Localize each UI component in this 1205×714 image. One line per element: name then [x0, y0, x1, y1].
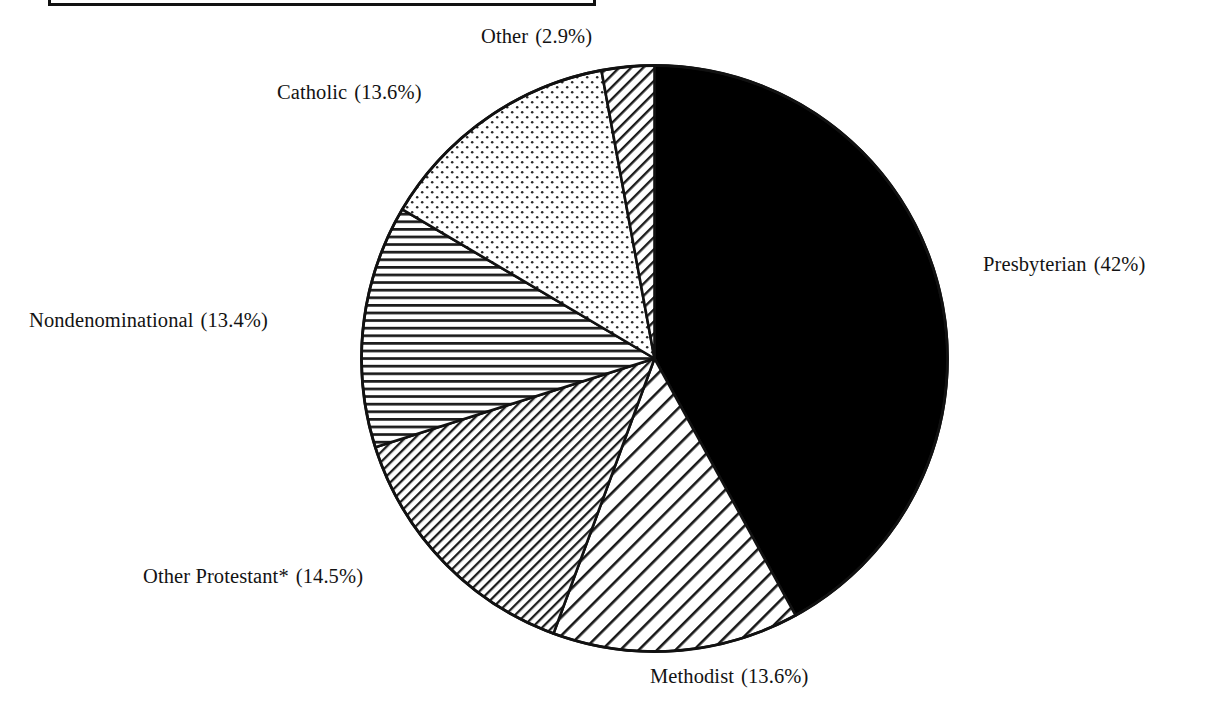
slice-label-other-percent: (2.9%) [535, 25, 592, 47]
slice-label-nondenominational-name: Nondenominational [29, 309, 194, 331]
slice-label-catholic: Catholic(13.6%) [277, 81, 422, 105]
pie-slices [362, 66, 948, 652]
slice-label-presbyterian-percent: (42%) [1094, 253, 1146, 275]
slice-label-methodist-percent: (13.6%) [741, 665, 808, 687]
slice-label-presbyterian-name: Presbyterian [983, 253, 1087, 275]
slice-label-catholic-name: Catholic [277, 81, 347, 103]
pie-chart-svg [0, 0, 1205, 714]
pie-chart: Other(2.9%) Catholic(13.6%) Nondenominat… [0, 0, 1205, 714]
slice-label-nondenominational: Nondenominational(13.4%) [29, 309, 268, 333]
slice-label-nondenominational-percent: (13.4%) [201, 309, 268, 331]
slice-label-other-name: Other [481, 25, 528, 47]
slice-label-methodist: Methodist(13.6%) [650, 665, 808, 689]
slice-label-presbyterian: Presbyterian(42%) [983, 253, 1145, 277]
slice-label-other: Other(2.9%) [481, 25, 592, 49]
slice-label-other-protestant-percent: (14.5%) [296, 565, 363, 587]
slice-label-methodist-name: Methodist [650, 665, 734, 687]
slice-label-catholic-percent: (13.6%) [354, 81, 421, 103]
slice-label-other-protestant: Other Protestant*(14.5%) [143, 565, 363, 589]
slice-label-other-protestant-name: Other Protestant* [143, 565, 289, 587]
